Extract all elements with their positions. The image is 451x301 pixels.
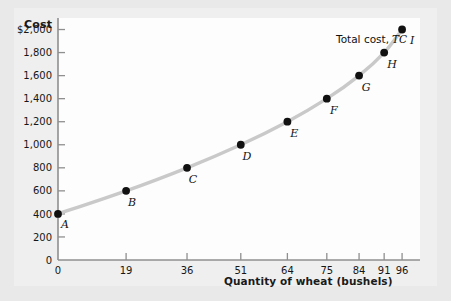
series-label-symbol: TC: [392, 33, 407, 45]
data-points: [54, 26, 406, 218]
total-cost-curve: [58, 30, 402, 214]
chart-figure: Cost Quantity of wheat (bushels) 0200400…: [0, 0, 451, 301]
x-tick-label: 51: [234, 265, 247, 276]
point-label-f: F: [329, 104, 338, 117]
y-tick-label: 800: [33, 162, 52, 173]
data-point-b: [122, 187, 130, 195]
x-tick-label: 84: [353, 265, 366, 276]
data-point-labels: ABCDEFGHI: [60, 34, 415, 231]
x-tick-label: 19: [120, 265, 133, 276]
data-point-c: [183, 164, 191, 172]
point-label-a: A: [60, 218, 69, 231]
data-point-a: [54, 210, 62, 218]
point-label-d: D: [241, 150, 251, 163]
y-tick-label: $2,000: [17, 24, 52, 35]
y-tick-label: 200: [33, 232, 52, 243]
data-point-g: [355, 72, 363, 80]
x-tick-label: 96: [396, 265, 409, 276]
y-tick-label: 0: [46, 255, 52, 266]
point-label-e: E: [289, 127, 298, 140]
x-axis-ticks: 01936516475849196: [55, 253, 409, 276]
x-tick-label: 0: [55, 265, 61, 276]
y-tick-label: 1,600: [23, 70, 52, 81]
data-point-d: [237, 141, 245, 149]
y-tick-label: 1,000: [23, 139, 52, 150]
chart-svg: 02004006008001,0001,2001,4001,6001,800$2…: [0, 0, 451, 301]
point-label-b: B: [127, 196, 136, 209]
y-tick-label: 1,200: [23, 116, 52, 127]
point-label-c: C: [189, 173, 198, 186]
y-tick-label: 1,800: [23, 47, 52, 58]
x-tick-label: 64: [281, 265, 294, 276]
y-tick-label: 400: [33, 209, 52, 220]
x-tick-label: 36: [181, 265, 194, 276]
point-label-g: G: [362, 81, 371, 94]
series-label-text: Total cost,: [335, 33, 389, 45]
data-point-h: [380, 49, 388, 57]
data-point-f: [323, 95, 331, 103]
point-label-i: I: [409, 34, 415, 47]
x-tick-label: 91: [378, 265, 391, 276]
y-tick-label: 1,400: [23, 93, 52, 104]
y-tick-label: 600: [33, 185, 52, 196]
point-label-h: H: [386, 58, 397, 71]
data-point-e: [283, 118, 291, 126]
x-tick-label: 75: [320, 265, 333, 276]
